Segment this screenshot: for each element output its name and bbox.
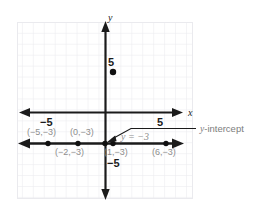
point-isolated-upper <box>110 69 116 75</box>
x-tick-5: 5 <box>157 116 163 128</box>
label-point-neg2-neg3: (−2,−3) <box>55 147 84 157</box>
y-tick-neg5: −5 <box>107 157 120 169</box>
x-axis-label: x <box>188 107 192 118</box>
label-point-neg5-neg3: (−5,−3) <box>27 127 56 137</box>
y-axis-label: y <box>108 12 112 23</box>
graph-canvas <box>0 0 264 205</box>
label-point-1-neg3: (1,−3) <box>104 147 128 157</box>
point-neg2-neg3 <box>75 141 80 146</box>
y-intercept-rest: -intercept <box>204 123 244 134</box>
label-y-intercept: y-intercept <box>200 123 244 134</box>
point-neg5-neg3 <box>45 141 50 146</box>
point-0-neg3 <box>102 141 107 146</box>
y-tick-5: 5 <box>108 56 114 68</box>
point-6-neg3 <box>163 141 168 146</box>
label-point-6-neg3: (6,−3) <box>152 147 176 157</box>
coordinate-plane-figure: y x −5 5 5 −5 (−5,−3) (0,−3) (−2,−3) (1,… <box>0 0 264 205</box>
label-line-equation: y = −3 <box>121 131 149 142</box>
label-point-0-neg3: (0,−3) <box>70 127 94 137</box>
